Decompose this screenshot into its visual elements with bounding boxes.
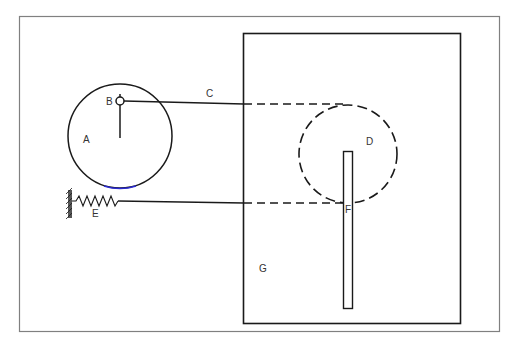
- mechanism-diagram: A B C D E F G: [0, 0, 519, 347]
- label-e: E: [92, 208, 99, 219]
- label-d: D: [366, 136, 373, 147]
- bar-f: [344, 152, 353, 309]
- label-c: C: [206, 88, 213, 99]
- rod-c-solid: [124, 101, 244, 104]
- label-g: G: [259, 263, 267, 274]
- spring-e-icon: [72, 196, 118, 206]
- label-a: A: [83, 134, 90, 145]
- label-b: B: [106, 96, 113, 107]
- pivot-b-icon: [116, 97, 124, 105]
- label-f: F: [345, 204, 351, 215]
- spring-rod-solid: [118, 201, 244, 203]
- outer-frame: [20, 17, 500, 332]
